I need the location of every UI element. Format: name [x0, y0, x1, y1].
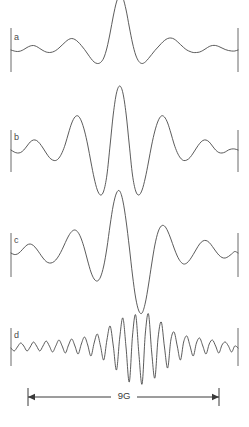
scale-bar: 9G — [28, 388, 219, 406]
panels-group: abcd — [11, 0, 238, 384]
spectrum-trace-b — [11, 86, 238, 195]
panel-label-d: d — [14, 330, 19, 340]
spectrum-trace-c — [11, 190, 238, 313]
panel-label-b: b — [14, 132, 19, 142]
panel-label-a: a — [14, 32, 19, 42]
spectrum-trace-d — [11, 314, 238, 385]
scale-bar-arrow-right-icon — [212, 394, 219, 400]
spectrum-panel-d: d — [11, 314, 238, 385]
spectrum-panel-a: a — [11, 0, 238, 72]
spectrum-panel-c: c — [11, 190, 238, 313]
spectra-figure: abcd 9G — [0, 0, 249, 427]
figure-container: abcd 9G — [0, 0, 249, 427]
scale-bar-arrow-left-icon — [28, 394, 35, 400]
scale-bar-label: 9G — [118, 390, 131, 401]
spectrum-trace-a — [11, 0, 238, 64]
spectrum-panel-b: b — [11, 86, 238, 195]
panel-label-c: c — [14, 235, 19, 245]
